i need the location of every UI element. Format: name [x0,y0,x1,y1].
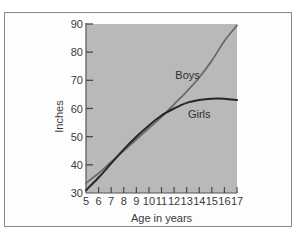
y-tick-label: 30 [71,187,83,199]
x-tick-label: 8 [121,195,127,207]
y-tick-label: 40 [71,159,83,171]
x-tick-label: 15 [206,195,218,207]
x-tick-label: 17 [231,195,243,207]
x-tick-label: 12 [168,195,180,207]
x-axis-label: Age in years [131,212,193,224]
series-label-girls: Girls [188,108,211,120]
x-tick-label: 6 [96,195,102,207]
x-tick-label: 5 [83,195,89,207]
x-tick-label: 11 [156,195,167,207]
y-tick-label: 60 [71,103,83,115]
x-tick-label: 16 [218,195,230,207]
chart: 30405060708090 567891011121314151617 Inc… [0,0,303,246]
y-tick-label: 70 [71,74,83,86]
y-tick-label: 50 [71,131,83,143]
x-tick-label: 14 [193,195,205,207]
x-tick-label: 9 [133,195,139,207]
x-tick-label: 7 [108,195,114,207]
x-tick-label: 13 [181,195,193,207]
y-axis-label: Inches [53,100,65,133]
y-tick-label: 90 [71,18,83,30]
y-tick-label: 80 [71,46,83,58]
series-label-boys: Boys [175,69,200,81]
x-tick-label: 10 [143,195,155,207]
